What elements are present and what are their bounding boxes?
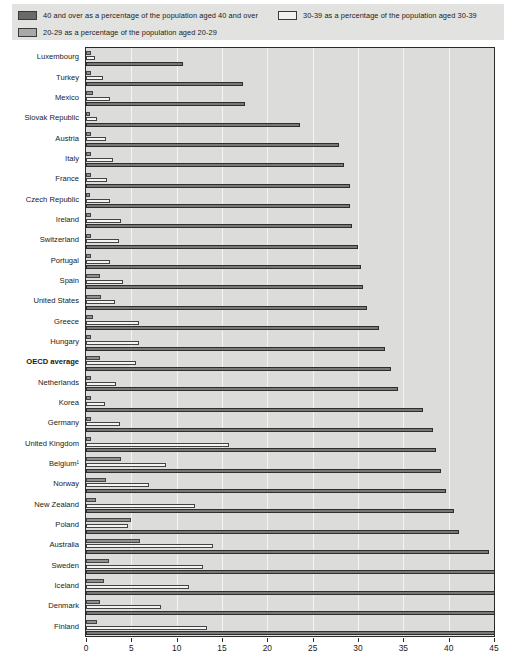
bar-b40 xyxy=(86,570,495,574)
gridline-40 xyxy=(449,48,450,636)
bar-b3039 xyxy=(86,605,161,609)
axis-tick-45 xyxy=(494,638,495,642)
legend-swatch-20-29-icon xyxy=(18,28,37,37)
category-label: Portugal xyxy=(51,257,79,265)
axis-tick-label: 10 xyxy=(172,643,181,653)
category-label: Luxembourg xyxy=(37,53,79,61)
axis-tick-label: 45 xyxy=(489,643,498,653)
axis-tick-15 xyxy=(222,638,223,642)
chart-legend: 40 and over as a percentage of the popul… xyxy=(12,4,504,40)
bar-b3039 xyxy=(86,422,120,426)
bar-b3039 xyxy=(86,178,107,182)
axis-tick-label: 20 xyxy=(263,643,272,653)
bar-b40 xyxy=(86,428,433,432)
bar-b3039 xyxy=(86,239,119,243)
bar-b3039 xyxy=(86,280,123,284)
bar-b2029 xyxy=(86,254,91,258)
bar-b2029 xyxy=(86,91,93,95)
gridline-15 xyxy=(222,48,223,636)
category-label: Belgium¹ xyxy=(49,460,79,468)
bar-b40 xyxy=(86,509,454,513)
category-label: Greece xyxy=(54,318,79,326)
category-label: Switzerland xyxy=(40,236,79,244)
legend-row-2: 20-29 as a percentage of the population … xyxy=(18,25,504,40)
category-axis-labels: LuxembourgTurkeyMexicoSlovak RepublicAus… xyxy=(0,47,83,637)
bar-b40 xyxy=(86,204,350,208)
value-axis: 051015202530354045 xyxy=(85,638,495,660)
bar-b2029 xyxy=(86,315,93,319)
plot-area xyxy=(85,47,495,637)
bar-b40 xyxy=(86,611,495,615)
bar-b40 xyxy=(86,367,391,371)
bar-b40 xyxy=(86,265,361,269)
bar-b2029 xyxy=(86,579,104,583)
category-label: Austria xyxy=(55,135,79,143)
bar-b40 xyxy=(86,123,300,127)
bar-b3039 xyxy=(86,56,95,60)
category-label: Turkey xyxy=(56,74,79,82)
bar-b40 xyxy=(86,163,344,167)
category-label: Sweden xyxy=(52,562,79,570)
legend-label-40-and-over: 40 and over as a percentage of the popul… xyxy=(43,11,258,20)
category-label: Germany xyxy=(48,419,79,427)
category-label: Slovak Republic xyxy=(25,114,79,122)
bar-b2029 xyxy=(86,376,91,380)
category-label: Poland xyxy=(55,521,79,529)
axis-tick-10 xyxy=(177,638,178,642)
bar-b40 xyxy=(86,245,358,249)
category-label: Italy xyxy=(65,155,79,163)
bar-b40 xyxy=(86,448,436,452)
bar-b2029 xyxy=(86,437,91,441)
bar-b3039 xyxy=(86,463,166,467)
legend-swatch-30-39-icon xyxy=(278,11,297,20)
axis-tick-30 xyxy=(358,638,359,642)
gridline-25 xyxy=(313,48,314,636)
axis-tick-40 xyxy=(449,638,450,642)
legend-item-40-and-over: 40 and over as a percentage of the popul… xyxy=(18,11,258,20)
bar-b2029 xyxy=(86,132,91,136)
category-label: Czech Republic xyxy=(26,196,79,204)
axis-tick-25 xyxy=(313,638,314,642)
bar-b3039 xyxy=(86,382,116,386)
bar-b2029 xyxy=(86,417,91,421)
bar-b40 xyxy=(86,530,459,534)
bar-b2029 xyxy=(86,112,90,116)
category-label: Ireland xyxy=(56,216,79,224)
bar-b40 xyxy=(86,62,183,66)
bar-b2029 xyxy=(86,518,131,522)
category-label: OECD average xyxy=(26,358,79,366)
bar-b3039 xyxy=(86,76,103,80)
gridline-35 xyxy=(403,48,404,636)
bar-b2029 xyxy=(86,396,91,400)
bar-b2029 xyxy=(86,274,100,278)
bar-b2029 xyxy=(86,539,140,543)
bar-b40 xyxy=(86,387,398,391)
bar-b3039 xyxy=(86,321,139,325)
category-label: Korea xyxy=(59,399,79,407)
axis-tick-label: 35 xyxy=(399,643,408,653)
bar-b3039 xyxy=(86,137,106,141)
bar-b2029 xyxy=(86,620,97,624)
bar-b40 xyxy=(86,143,339,147)
bar-b40 xyxy=(86,550,489,554)
category-label: Denmark xyxy=(48,602,79,610)
bar-b3039 xyxy=(86,585,189,589)
category-label: Australia xyxy=(49,541,79,549)
bar-b2029 xyxy=(86,295,101,299)
bar-b40 xyxy=(86,102,245,106)
bar-b3039 xyxy=(86,544,213,548)
bar-b40 xyxy=(86,631,495,635)
bar-b2029 xyxy=(86,335,91,339)
axis-tick-label: 40 xyxy=(444,643,453,653)
bar-b3039 xyxy=(86,300,115,304)
bar-b2029 xyxy=(86,213,91,217)
bar-b3039 xyxy=(86,402,105,406)
bar-b40 xyxy=(86,306,367,310)
legend-item-30-39: 30-39 as a percentage of the population … xyxy=(278,11,477,20)
gridline-20 xyxy=(267,48,268,636)
bar-b3039 xyxy=(86,361,136,365)
bar-b2029 xyxy=(86,71,91,75)
bar-b40 xyxy=(86,591,495,595)
bar-b2029 xyxy=(86,51,91,55)
bar-b3039 xyxy=(86,524,128,528)
